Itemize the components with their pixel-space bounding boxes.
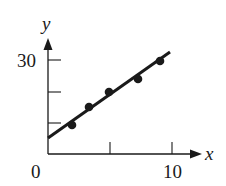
data-point [156,57,165,66]
x-axis-arrow-icon [190,150,202,159]
y-axis-label: y [40,13,51,34]
y-tick-label-30: 30 [17,50,36,71]
origin-label: 0 [31,161,41,182]
y-axis-arrow-icon [44,38,53,50]
data-point [68,121,77,130]
chart-canvas: y x 30 0 10 [0,0,226,186]
x-axis-label: x [204,143,214,164]
data-point [134,75,143,84]
data-point [105,88,114,97]
data-point [85,103,94,112]
x-tick-label-10: 10 [163,161,182,182]
